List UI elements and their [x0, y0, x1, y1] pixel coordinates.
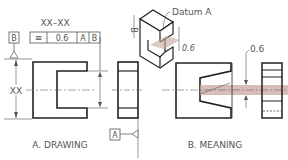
section-label: XX–XX: [40, 18, 69, 28]
fcf-datum-1: A: [80, 34, 86, 43]
iso-tolerance: 0.6: [182, 44, 195, 53]
datum-a-label: A: [112, 131, 118, 140]
iso-b-label: B: [129, 27, 138, 33]
fcf-tolerance: 0.6: [56, 34, 69, 43]
datum-triangle-icon: [10, 51, 18, 58]
meaning-caption: B. MEANING: [188, 140, 243, 150]
meaning-panel: B Datum A 0.6 0.6 B. MEANING: [129, 7, 288, 150]
symmetry-symbol-icon: ≡: [35, 33, 43, 43]
technical-drawing: XX–XX B ≡ 0.6 A B XX: [0, 0, 288, 160]
datum-b-label: B: [11, 34, 17, 43]
feature-control-frame: ≡ 0.6 A B: [30, 32, 100, 43]
drawing-panel: XX–XX B ≡ 0.6 A B XX: [4, 18, 142, 158]
datum-callout: Datum A: [172, 7, 212, 17]
tolerance-zone-label: 0.6: [250, 44, 265, 54]
datum-a-triangle-icon: [132, 130, 138, 138]
dimension-xx: XX: [10, 86, 22, 96]
drawing-caption: A. DRAWING: [32, 140, 87, 150]
fcf-datum-2: B: [92, 34, 98, 43]
